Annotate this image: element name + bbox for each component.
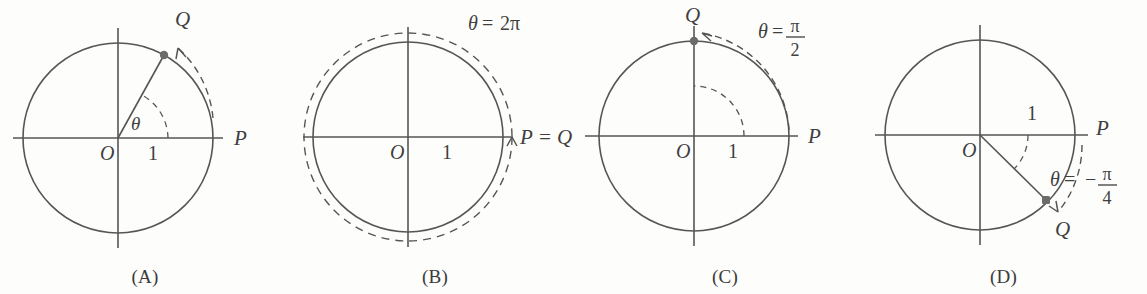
angle-equation-rhs: 2π [500, 12, 520, 34]
label-radius: 1 [442, 141, 452, 163]
label-p: P [807, 124, 821, 148]
label-q: Q [1055, 217, 1070, 241]
terminal-radius [980, 135, 1046, 200]
panel-a: Q P O 1 θ (A) [0, 0, 290, 294]
rotation-arc [702, 33, 789, 130]
angle-equation: θ = π 2 [758, 16, 805, 60]
label-q: Q [175, 7, 190, 31]
panel-c-caption: (C) [580, 266, 870, 288]
angle-equation-numerator: π [1102, 164, 1111, 184]
label-origin: O [100, 142, 114, 164]
point-q-marker [690, 37, 698, 45]
angle-equation-eq: = [482, 12, 493, 34]
label-origin: O [676, 140, 690, 162]
rotation-arrowhead [176, 48, 186, 59]
label-q: Q [685, 3, 700, 27]
label-p: P [1095, 116, 1109, 140]
angle-equation-numerator: π [790, 16, 799, 36]
label-theta: θ [131, 113, 140, 134]
angle-equation: θ = 2π [468, 12, 520, 34]
panel-d-diagram: Q P O 1 θ = − π 4 [860, 0, 1147, 294]
label-p: P [233, 126, 247, 150]
label-origin: O [962, 139, 976, 161]
label-origin: O [390, 141, 404, 163]
angle-equation-sign: − [1085, 168, 1096, 190]
panel-a-caption: (A) [0, 266, 290, 288]
panel-b: θ = 2π P = Q O 1 (B) [290, 0, 580, 294]
angle-equation-denominator: 4 [1103, 188, 1112, 208]
label-radius: 1 [148, 142, 158, 164]
point-q-marker [160, 51, 168, 59]
rotation-arrowhead [1049, 201, 1058, 212]
panel-b-diagram: θ = 2π P = Q O 1 [290, 0, 580, 294]
angle-equation-lhs: θ [1050, 168, 1060, 190]
panel-b-caption: (B) [290, 266, 580, 288]
label-radius: 1 [1027, 102, 1037, 124]
terminal-radius [118, 55, 164, 138]
point-q-marker [1042, 196, 1050, 204]
panel-c: Q P O 1 θ = π 2 (C) [580, 0, 870, 294]
panel-c-diagram: Q P O 1 θ = π 2 [580, 0, 870, 294]
rotation-arrowhead [702, 33, 712, 41]
angle-equation-eq: = [772, 20, 783, 42]
angle-arc [694, 86, 744, 136]
panel-d: Q P O 1 θ = − π 4 (D) [860, 0, 1147, 294]
panel-a-diagram: Q P O 1 θ [0, 0, 290, 294]
angle-equation-denominator: 2 [791, 40, 800, 60]
angle-arc [1014, 135, 1028, 169]
panel-d-caption: (D) [860, 266, 1147, 288]
label-p-equals-q: P = Q [519, 125, 572, 149]
unit-circle-figure: Q P O 1 θ (A) θ = 2π P = Q O [0, 0, 1147, 294]
angle-arc [142, 95, 168, 138]
angle-equation-lhs: θ [758, 20, 768, 42]
label-radius: 1 [728, 140, 738, 162]
angle-equation-eq: = [1064, 168, 1075, 190]
angle-equation-lhs: θ [468, 12, 478, 34]
